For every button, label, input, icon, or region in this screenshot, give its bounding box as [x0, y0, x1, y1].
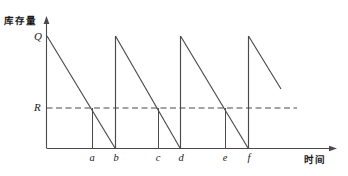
x-axis-tick-b: b — [109, 153, 123, 164]
y-axis-title: 库存量 — [4, 16, 37, 26]
x-axis-tick-c: c — [151, 153, 165, 164]
x-axis-tick-a: a — [85, 153, 99, 164]
x-axis-tick-d: d — [174, 153, 188, 164]
x-axis-tick-e: e — [218, 153, 232, 164]
inventory-curve — [47, 36, 281, 148]
x-axis — [47, 146, 338, 151]
y-axis-label-r: R — [34, 102, 41, 113]
x-axis-title: 时间 — [304, 155, 326, 165]
chart-plot-area — [0, 0, 348, 176]
inventory-sawtooth-chart: 库存量 时间 Q R a b c d e f — [0, 0, 348, 176]
y-axis — [44, 16, 50, 148]
x-axis-tick-f: f — [242, 153, 256, 164]
y-axis-label-q: Q — [34, 31, 42, 42]
